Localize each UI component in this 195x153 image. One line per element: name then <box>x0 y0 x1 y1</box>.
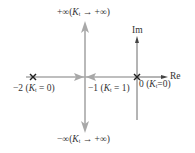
imaginary-axis-arrow-icon <box>135 36 139 43</box>
pole-minus-2-label: −2 (Kt = 0) <box>13 84 55 94</box>
bottom-asymptote-label: −∞(Kt → +∞) <box>57 135 110 145</box>
breakaway-label: −1 (Kt = 1) <box>88 84 130 94</box>
real-axis-label: Re <box>170 72 181 82</box>
imaginary-axis-label: Im <box>132 26 143 36</box>
root-locus-diagram <box>0 0 195 153</box>
pole-0-label: 0 (Kt=0) <box>139 80 171 90</box>
top-asymptote-label: +∞(Kt → +∞) <box>57 8 110 18</box>
